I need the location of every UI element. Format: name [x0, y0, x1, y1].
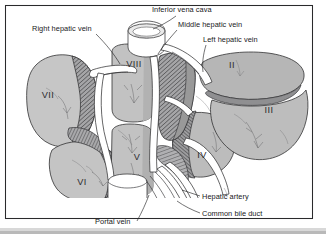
segment-label-v: V [134, 152, 141, 162]
liver-anatomy-figure: Inferior vena cava Middle hepatic vein L… [0, 0, 326, 236]
liver-anatomy-illustration: Inferior vena cava Middle hepatic vein L… [0, 0, 326, 236]
label-inferior-vena-cava: Inferior vena cava [152, 5, 212, 14]
segment-label-iii: III [265, 105, 274, 115]
label-right-hepatic-vein: Right hepatic vein [32, 24, 92, 33]
label-hepatic-artery: Hepatic artery [202, 192, 249, 201]
label-left-hepatic-vein: Left hepatic vein [203, 35, 258, 44]
page-shadow-lower [0, 231, 326, 234]
segment-ii-lobe [200, 52, 304, 105]
segment-label-viii: VIII [126, 59, 141, 69]
segment-label-vii: VII [42, 90, 54, 100]
label-common-bile-duct: Common bile duct [202, 209, 262, 218]
segment-label-ii: II [229, 60, 235, 70]
segment-label-iv: IV [197, 150, 207, 160]
label-middle-hepatic-vein: Middle hepatic vein [178, 20, 242, 29]
segment-label-vi: VI [77, 177, 86, 187]
